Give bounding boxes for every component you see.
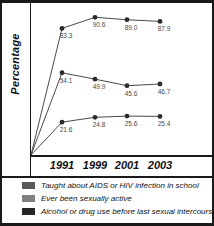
data-point-marker	[125, 83, 130, 88]
legend-item-label: Alcohol or drug use before last sexual i…	[41, 208, 214, 216]
data-point-marker	[93, 15, 98, 20]
legend-color-swatch	[22, 182, 35, 189]
figure-border-bottom	[0, 223, 214, 226]
data-point-marker	[60, 70, 65, 75]
x-tick-2003: 2003	[148, 159, 172, 171]
x-tick-1991: 1991	[50, 159, 74, 171]
data-point-value-label: 49.9	[93, 83, 106, 90]
data-point-value-label: 25.4	[158, 120, 171, 127]
legend-item-label: Taught about AIDS or HIV infection in sc…	[41, 182, 199, 190]
data-point-marker	[60, 120, 65, 125]
data-point-marker	[158, 82, 163, 87]
legend-color-swatch	[22, 208, 35, 215]
data-point-marker	[158, 19, 163, 24]
data-point-value-label: 25.6	[125, 120, 138, 127]
data-point-value-label: 45.6	[125, 90, 138, 97]
legend-item: Alcohol or drug use before last sexual i…	[22, 205, 212, 218]
chart-figure: Percentage 83.390.689.087.954.149.945.64…	[0, 0, 214, 226]
y-axis-title: Percentage	[9, 19, 21, 109]
legend-color-swatch	[22, 195, 35, 202]
data-point-marker	[60, 26, 65, 31]
figure-border-right	[212, 0, 214, 226]
legend-item-label: Ever been sexually active	[41, 195, 132, 203]
data-point-value-label: 54.1	[60, 77, 73, 84]
data-point-value-label: 24.8	[93, 121, 106, 128]
data-point-value-label: 87.9	[158, 25, 171, 32]
data-point-value-label: 83.3	[60, 32, 73, 39]
x-tick-2001: 2001	[115, 159, 139, 171]
data-point-value-label: 46.7	[158, 88, 171, 95]
legend-divider	[2, 176, 212, 178]
x-tick-1999: 1999	[83, 159, 107, 171]
x-axis-tick-labels: 1991199920012003	[31, 159, 212, 175]
legend-item: Ever been sexually active	[22, 192, 212, 205]
data-point-marker	[125, 17, 130, 22]
plot-area: 83.390.689.087.954.149.945.646.721.624.8…	[31, 3, 212, 155]
data-point-value-label: 90.6	[93, 21, 106, 28]
chart-legend: Taught about AIDS or HIV infection in sc…	[2, 179, 212, 223]
data-point-marker	[93, 115, 98, 120]
line-chart-svg	[31, 3, 212, 155]
data-point-value-label: 21.6	[60, 126, 73, 133]
data-point-marker	[158, 114, 163, 119]
data-point-value-label: 89.0	[125, 24, 138, 31]
legend-item: Taught about AIDS or HIV infection in sc…	[22, 179, 212, 192]
data-point-marker	[125, 114, 130, 119]
data-point-marker	[93, 77, 98, 82]
x-axis-line	[31, 155, 212, 157]
